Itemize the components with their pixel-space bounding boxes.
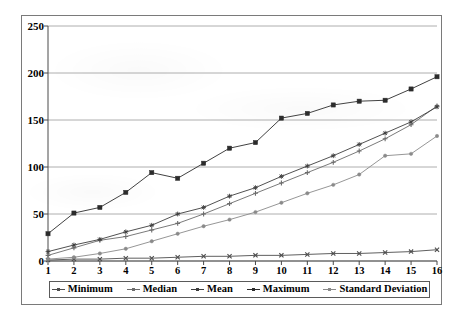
- legend-label: Maximum: [263, 284, 310, 295]
- x-tick-label: 3: [97, 265, 102, 276]
- y-tick-label: 200: [28, 67, 45, 79]
- x-tick-label: 8: [227, 265, 232, 276]
- legend-marker-icon: [52, 285, 65, 294]
- x-tick-label: 4: [123, 265, 128, 276]
- x-tick-label: 9: [253, 265, 258, 276]
- x-tick-label: 6: [175, 265, 180, 276]
- legend-label: Minimum: [68, 284, 113, 295]
- x-tick-label: 11: [302, 265, 312, 276]
- x-tick-label: 15: [406, 265, 417, 276]
- legend-item-minimum[interactable]: Minimum: [52, 284, 113, 295]
- y-tick-label: 0: [39, 255, 45, 267]
- y-tick-label: 100: [28, 161, 45, 173]
- x-tick-label: 2: [71, 265, 76, 276]
- x-tick-label: 12: [328, 265, 339, 276]
- legend-label: Mean: [207, 284, 233, 295]
- x-tick-label: 13: [354, 265, 365, 276]
- x-axis-tick-labels: 12345678910111213141516: [48, 265, 437, 281]
- legend-marker-icon: [323, 285, 336, 294]
- legend-marker-icon: [127, 285, 140, 294]
- x-tick-label: 16: [432, 265, 443, 276]
- legend-item-mean[interactable]: Mean: [191, 284, 233, 295]
- legend-item-standard-deviation[interactable]: Standard Deviation: [323, 284, 427, 295]
- y-axis-tick-labels: 250200150100500: [22, 26, 44, 261]
- x-tick-label: 7: [201, 265, 206, 276]
- chart-root: 250200150100500 12345678910111213141516 …: [0, 0, 463, 320]
- y-tick-label: 150: [28, 114, 45, 126]
- legend-item-median[interactable]: Median: [127, 284, 177, 295]
- chart-legend: MinimumMedianMeanMaximumStandard Deviati…: [49, 281, 430, 298]
- x-tick-label: 10: [276, 265, 287, 276]
- y-tick-label: 250: [28, 20, 45, 32]
- legend-label: Standard Deviation: [339, 284, 427, 295]
- legend-label: Median: [143, 284, 177, 295]
- y-tick-label: 50: [33, 208, 44, 220]
- legend-item-maximum[interactable]: Maximum: [247, 284, 310, 295]
- x-tick-label: 14: [380, 265, 391, 276]
- legend-marker-icon: [247, 285, 260, 294]
- chart-frame: [21, 15, 442, 305]
- x-tick-label: 1: [45, 265, 50, 276]
- x-tick-label: 5: [149, 265, 154, 276]
- legend-marker-icon: [191, 285, 204, 294]
